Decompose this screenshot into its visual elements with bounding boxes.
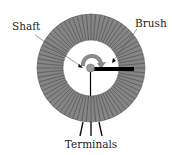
terminals-label: Terminals bbox=[65, 138, 118, 150]
terminal-right bbox=[99, 122, 102, 136]
terminals bbox=[80, 122, 102, 136]
terminal-left bbox=[80, 122, 83, 136]
potentiometer-diagram: Shaft Brush Terminals bbox=[0, 0, 172, 155]
shaft-label: Shaft bbox=[12, 20, 41, 32]
brush bbox=[92, 67, 134, 71]
brush-label: Brush bbox=[135, 17, 167, 29]
shaft bbox=[87, 64, 95, 72]
